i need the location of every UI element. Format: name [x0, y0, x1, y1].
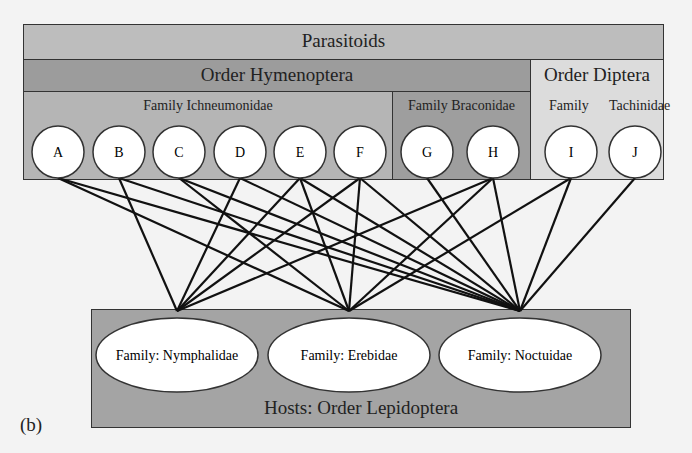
host-node-noc: Family: Noctuidae [439, 318, 601, 392]
parasitoid-node-A: A [32, 126, 84, 178]
edge-C-noc [179, 178, 520, 311]
parasitoid-node-I: I [545, 126, 597, 178]
parasitoid-node-B: B [93, 126, 145, 178]
svg-text:A: A [53, 145, 64, 160]
edge-I-noc [520, 178, 571, 311]
svg-text:J: J [632, 145, 638, 160]
host-node-nym: Family: Nymphalidae [96, 318, 258, 392]
svg-text:I: I [569, 145, 574, 160]
parasitoid-node-G: G [401, 126, 453, 178]
svg-text:E: E [296, 145, 305, 160]
parasitoid-node-C: C [153, 126, 205, 178]
svg-text:F: F [356, 145, 364, 160]
svg-text:Family: Erebidae: Family: Erebidae [301, 348, 398, 363]
svg-text:D: D [235, 145, 245, 160]
parasitoid-node-J: J [609, 126, 661, 178]
svg-text:Family: Noctuidae: Family: Noctuidae [468, 348, 573, 363]
edge-A-noc [58, 178, 520, 311]
parasitoid-node-H: H [467, 126, 519, 178]
svg-text:Family: Nymphalidae: Family: Nymphalidae [116, 348, 238, 363]
interaction-network: ABCDEFGHIJFamily: NymphalidaeFamily: Ere… [0, 0, 692, 453]
svg-text:H: H [488, 145, 498, 160]
svg-text:G: G [422, 145, 432, 160]
parasitoid-node-F: F [334, 126, 386, 178]
svg-text:B: B [114, 145, 123, 160]
parasitoid-node-E: E [274, 126, 326, 178]
svg-text:C: C [174, 145, 183, 160]
parasitoid-node-D: D [214, 126, 266, 178]
edge-D-noc [240, 178, 520, 311]
host-node-ere: Family: Erebidae [268, 318, 430, 392]
